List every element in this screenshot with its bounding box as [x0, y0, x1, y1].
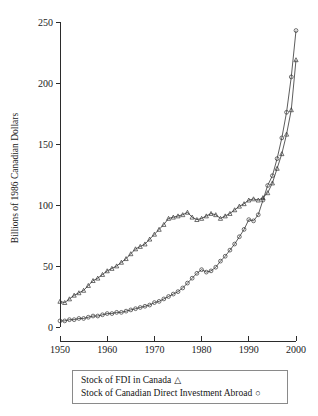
y-axis-tick-label: 0	[48, 322, 53, 333]
series-1	[58, 58, 298, 305]
y-axis-title-text: Billions of 1986 Canadian Dollars	[10, 113, 20, 244]
line-chart-plot: 050100150200250195019601970198019902000 …	[0, 0, 318, 360]
legend-item-fdi-in-canada: Stock of FDI in Canada△	[81, 374, 281, 387]
series-line	[60, 31, 296, 321]
x-axis-tick-label: 1950	[50, 344, 70, 355]
x-axis-tick-label: 1960	[97, 344, 117, 355]
y-axis-tick-label: 100	[38, 200, 53, 211]
y-axis-tick-label: 250	[38, 17, 53, 28]
legend-label-canadian-investment-abroad: Stock of Canadian Direct Investment Abro…	[81, 388, 252, 398]
circle-marker-icon: ○	[252, 388, 260, 398]
chart-legend: Stock of FDI in Canada△ Stock of Canadia…	[72, 370, 288, 404]
legend-item-canadian-investment-abroad: Stock of Canadian Direct Investment Abro…	[81, 387, 281, 400]
y-axis-tick-label: 150	[38, 139, 53, 150]
legend-label-fdi-in-canada: Stock of FDI in Canada	[81, 375, 171, 385]
y-axis-tick-label: 200	[38, 78, 53, 89]
series-2	[58, 29, 298, 323]
triangle-marker-icon: △	[171, 375, 181, 385]
y-axis-tick-label: 50	[43, 261, 53, 272]
y-axis-title: Billions of 1986 Canadian Dollars	[10, 113, 20, 244]
chart-series	[58, 29, 298, 323]
chart-figure: 050100150200250195019601970198019902000 …	[0, 0, 318, 416]
x-axis-tick-label: 1990	[239, 344, 259, 355]
series-line	[60, 60, 296, 303]
x-axis-tick-label: 1980	[192, 344, 212, 355]
x-axis-tick-label: 2000	[286, 344, 306, 355]
x-axis-tick-label: 1970	[144, 344, 164, 355]
